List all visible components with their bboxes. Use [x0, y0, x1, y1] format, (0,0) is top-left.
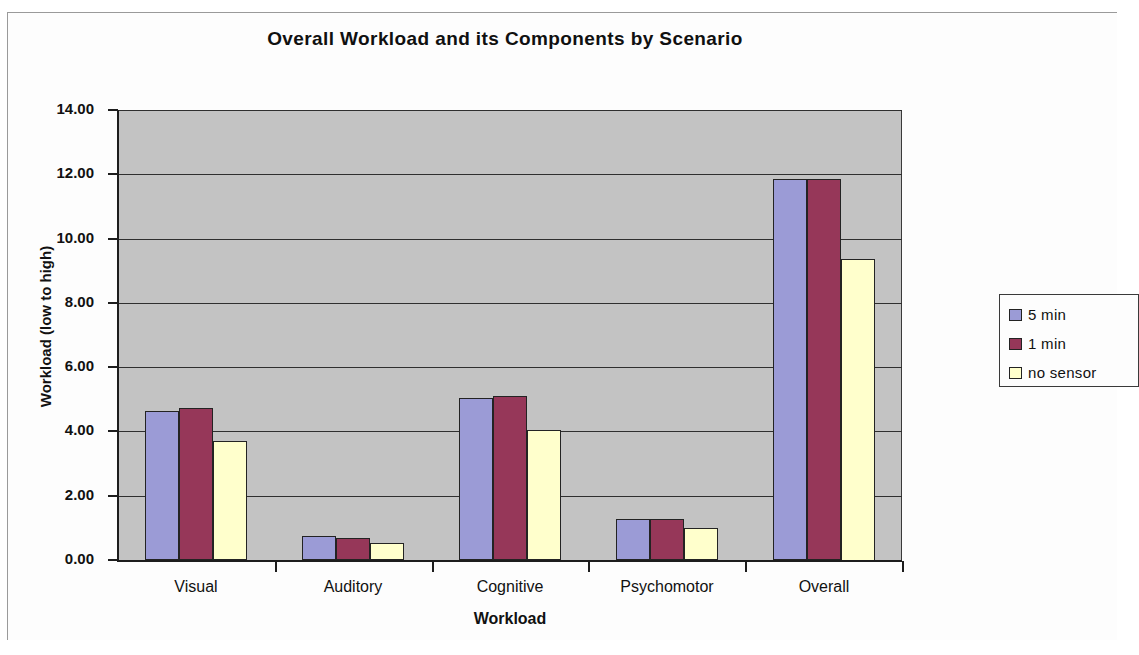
legend-swatch-icon	[1009, 367, 1022, 379]
y-axis-tick-label: 6.00	[24, 357, 94, 374]
bar	[179, 408, 213, 560]
bar	[213, 441, 247, 560]
x-axis-tick	[432, 561, 434, 572]
legend-item: 5 min	[1009, 306, 1066, 324]
bar	[807, 179, 841, 560]
y-axis-tick-label: 8.00	[24, 293, 94, 310]
bar	[459, 398, 493, 560]
legend-swatch-icon	[1009, 309, 1022, 321]
gridline	[118, 110, 902, 111]
bar	[650, 519, 684, 560]
gridline	[118, 174, 902, 175]
bar	[302, 536, 336, 560]
chart-title: Overall Workload and its Components by S…	[110, 28, 900, 50]
y-axis-tick-label: 0.00	[24, 550, 94, 567]
legend-swatch-icon	[1009, 338, 1022, 350]
y-axis-tick	[108, 495, 118, 497]
x-axis-tick-label: Psychomotor	[582, 578, 752, 596]
bar	[336, 538, 370, 560]
y-axis-tick-label: 4.00	[24, 421, 94, 438]
bar	[493, 396, 527, 560]
y-axis-tick	[108, 109, 118, 111]
x-axis-tick-label: Cognitive	[425, 578, 595, 596]
y-axis-tick	[108, 366, 118, 368]
x-axis-tick-label: Auditory	[268, 578, 438, 596]
y-axis-tick	[108, 238, 118, 240]
legend-item: no sensor	[1009, 364, 1097, 382]
legend-item: 1 min	[1009, 335, 1066, 353]
bar	[684, 528, 718, 560]
x-axis-tick	[588, 561, 590, 572]
legend-label: 1 min	[1028, 335, 1066, 352]
y-axis-tick-label: 14.00	[24, 100, 94, 117]
chart-legend: 5 min1 minno sensor	[999, 294, 1139, 387]
x-axis-tick	[902, 561, 904, 572]
y-axis-tick	[108, 173, 118, 175]
x-axis-tick-label: Visual	[111, 578, 281, 596]
legend-label: no sensor	[1028, 364, 1097, 381]
plot-right-border	[901, 110, 902, 561]
x-axis-tick	[745, 561, 747, 572]
bar	[370, 543, 404, 560]
legend-label: 5 min	[1028, 306, 1066, 323]
bar	[616, 519, 650, 560]
x-axis-title: Workload	[118, 610, 902, 628]
bar	[145, 411, 179, 560]
y-axis-tick-label: 12.00	[24, 164, 94, 181]
bar	[841, 259, 875, 561]
y-axis-tick-label: 2.00	[24, 486, 94, 503]
x-axis-tick	[275, 561, 277, 572]
x-axis-tick-label: Overall	[739, 578, 909, 596]
y-axis-title: Workload (low to high)	[37, 127, 54, 527]
y-axis-tick	[108, 302, 118, 304]
x-axis-line	[117, 560, 902, 562]
bar	[773, 179, 807, 560]
bar	[527, 430, 561, 560]
y-axis-tick	[108, 430, 118, 432]
y-axis-line	[117, 110, 119, 561]
y-axis-tick-label: 10.00	[24, 229, 94, 246]
